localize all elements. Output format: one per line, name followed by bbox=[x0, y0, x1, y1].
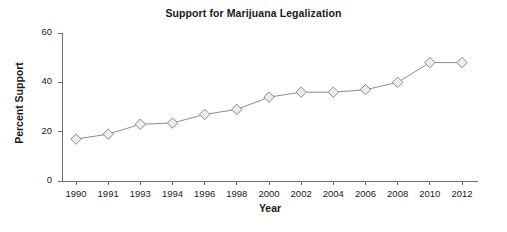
x-tick-label: 1990 bbox=[65, 188, 86, 199]
x-tick-label: 1993 bbox=[130, 188, 151, 199]
x-tick-label: 1998 bbox=[226, 188, 247, 199]
data-point-markers bbox=[71, 57, 467, 144]
x-tick-label: 1996 bbox=[194, 188, 215, 199]
data-point-marker bbox=[360, 85, 370, 95]
data-point-marker bbox=[71, 134, 81, 144]
y-tick-label: 20 bbox=[18, 125, 52, 136]
x-tick-label: 1991 bbox=[98, 188, 119, 199]
data-point-marker bbox=[135, 119, 145, 129]
data-point-marker bbox=[264, 92, 274, 102]
data-point-marker bbox=[296, 87, 306, 97]
data-point-marker bbox=[232, 104, 242, 114]
axes-group bbox=[58, 33, 478, 185]
x-tick-label: 2010 bbox=[419, 188, 440, 199]
chart-figure: Support for Marijuana Legalization Perce… bbox=[0, 0, 507, 232]
y-tick-label: 40 bbox=[18, 75, 52, 86]
x-tick-label: 1994 bbox=[162, 188, 183, 199]
data-point-marker bbox=[167, 118, 177, 128]
x-tick-label: 2012 bbox=[451, 188, 472, 199]
x-tick-label: 2006 bbox=[355, 188, 376, 199]
data-point-marker bbox=[392, 77, 402, 87]
y-tick-label: 60 bbox=[18, 26, 52, 37]
data-point-marker bbox=[103, 129, 113, 139]
x-tick-label: 2000 bbox=[258, 188, 279, 199]
y-tick-label: 0 bbox=[18, 174, 52, 185]
data-point-marker bbox=[328, 87, 338, 97]
x-tick-label: 2008 bbox=[387, 188, 408, 199]
data-point-marker bbox=[199, 109, 209, 119]
x-tick-label: 2002 bbox=[291, 188, 312, 199]
data-point-marker bbox=[425, 57, 435, 67]
x-tick-label: 2004 bbox=[323, 188, 344, 199]
data-point-marker bbox=[457, 57, 467, 67]
